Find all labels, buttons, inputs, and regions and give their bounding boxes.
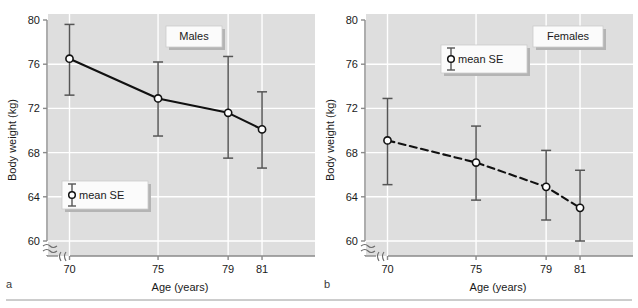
x-tick-label-79: 79	[540, 263, 552, 275]
data-point-a-81	[258, 126, 265, 133]
panel-a: 60646872768070757981	[28, 14, 315, 275]
data-point-a-75	[154, 95, 161, 102]
y-tick-label-76: 76	[346, 58, 358, 70]
data-point-b-75	[472, 159, 479, 166]
x-axis-title-b: Age (years)	[470, 281, 527, 293]
x-tick-label-70: 70	[381, 263, 393, 275]
x-tick-label-81: 81	[256, 263, 268, 275]
data-point-b-70	[384, 137, 391, 144]
y-tick-label-60: 60	[346, 235, 358, 247]
x-tick-label-70: 70	[63, 263, 75, 275]
y-tick-label-72: 72	[346, 102, 358, 114]
y-axis-title-a: Body weight (kg)	[6, 99, 18, 181]
data-point-a-70	[66, 55, 73, 62]
x-tick-label-79: 79	[222, 263, 234, 275]
x-tick-label-75: 75	[152, 263, 164, 275]
y-tick-label-68: 68	[28, 147, 40, 159]
legend-males-text: mean SE	[79, 189, 124, 201]
data-point-a-79	[225, 109, 232, 116]
y-tick-label-60: 60	[28, 235, 40, 247]
panel-letter-a: a	[6, 278, 13, 290]
figure-container: 6064687276807075798160646872768070757981…	[0, 0, 638, 308]
males-label-text: Males	[179, 30, 209, 42]
y-tick-label-76: 76	[28, 58, 40, 70]
females-label-text: Females	[547, 30, 590, 42]
y-tick-label-72: 72	[28, 102, 40, 114]
x-tick-label-75: 75	[470, 263, 482, 275]
plot-background	[48, 14, 315, 256]
legend-females-text: mean SE	[458, 53, 503, 65]
y-tick-label-68: 68	[346, 147, 358, 159]
y-tick-label-64: 64	[28, 191, 40, 203]
y-axis-title-b: Body weight (kg)	[324, 99, 336, 181]
x-axis-title-a: Age (years)	[152, 281, 209, 293]
y-tick-label-80: 80	[346, 14, 358, 26]
legend-males-marker	[69, 192, 76, 199]
x-tick-label-81: 81	[574, 263, 586, 275]
y-tick-label-64: 64	[346, 191, 358, 203]
data-point-b-81	[576, 204, 583, 211]
panel-letter-b: b	[324, 278, 330, 290]
legend-females-marker	[448, 56, 455, 63]
data-point-b-79	[543, 183, 550, 190]
y-tick-label-80: 80	[28, 14, 40, 26]
chart-svg: 6064687276807075798160646872768070757981…	[0, 0, 638, 308]
